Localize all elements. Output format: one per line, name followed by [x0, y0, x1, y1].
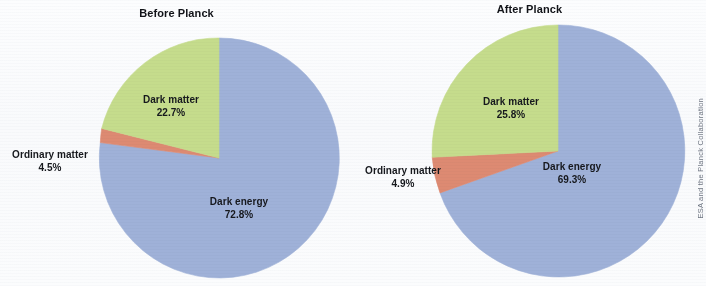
pie-slices-before-planck	[99, 38, 339, 278]
slice-label-ordinary-matter-name: Ordinary matter	[12, 149, 88, 160]
slice-label-ordinary-matter-value: 4.9%	[349, 177, 457, 190]
slice-label-dark-matter-name: Dark matter	[143, 94, 199, 105]
pie-slice-dark-matter	[432, 25, 558, 157]
pie-slices-after-planck	[432, 25, 685, 277]
slice-label-dark-energy: Dark energy 72.8%	[180, 195, 298, 221]
slice-label-dark-matter-value: 25.8%	[452, 108, 570, 121]
slice-label-ordinary-matter-name: Ordinary matter	[365, 165, 441, 176]
image-credit: ESA and the Planck Collaboration	[696, 98, 705, 219]
figure-canvas: Before Planck Dark matter 22.7% Ordinary…	[0, 0, 706, 286]
chart-title-before-planck: Before Planck	[0, 7, 353, 19]
slice-label-dark-energy-value: 72.8%	[180, 208, 298, 221]
slice-label-dark-matter-name: Dark matter	[483, 96, 539, 107]
slice-label-ordinary-matter: Ordinary matter 4.5%	[0, 148, 102, 174]
slice-label-dark-matter: Dark matter 25.8%	[452, 95, 570, 121]
pie-chart-before-planck	[0, 0, 353, 286]
chart-title-after-planck: After Planck	[353, 3, 706, 15]
slice-label-dark-energy-value: 69.3%	[513, 173, 631, 186]
slice-label-ordinary-matter-value: 4.5%	[0, 161, 102, 174]
chart-panel-before-planck: Before Planck Dark matter 22.7% Ordinary…	[0, 0, 353, 286]
slice-label-dark-energy-name: Dark energy	[543, 161, 601, 172]
slice-label-dark-energy: Dark energy 69.3%	[513, 160, 631, 186]
slice-label-dark-matter-value: 22.7%	[112, 106, 230, 119]
slice-label-dark-energy-name: Dark energy	[210, 196, 268, 207]
slice-label-ordinary-matter: Ordinary matter 4.9%	[349, 164, 457, 190]
slice-label-dark-matter: Dark matter 22.7%	[112, 93, 230, 119]
pie-chart-after-planck	[353, 0, 706, 286]
chart-panel-after-planck: After Planck Dark matter 25.8% Ordinary …	[353, 0, 706, 286]
